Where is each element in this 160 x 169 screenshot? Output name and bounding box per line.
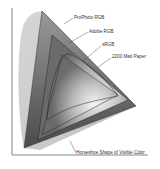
label-adobe-rgb: Adobe RGB [89, 29, 114, 34]
prophoto-leader [64, 18, 73, 24]
label-horseshoe: Horseshoe Shape of Visible Color [76, 150, 145, 155]
color-gamut-diagram: ProPhoto RGB Adobe RGB sRGB 2200 Matt Pa… [0, 0, 160, 169]
adobe-leader [69, 32, 88, 43]
paper-leader [98, 58, 111, 67]
label-prophoto-rgb: ProPhoto RGB [74, 15, 104, 20]
label-matt-paper: 2200 Matt Paper [112, 54, 146, 59]
label-srgb: sRGB [102, 42, 114, 47]
